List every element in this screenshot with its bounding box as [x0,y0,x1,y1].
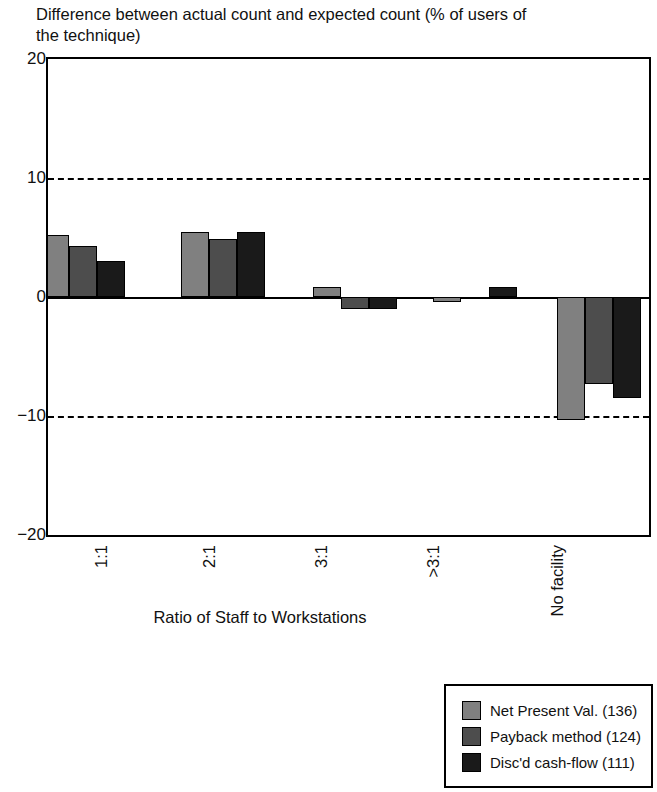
legend-item-label: Payback method (124) [490,728,641,745]
legend-item: Payback method (124) [462,723,651,749]
x-axis-tick-no-facility: No facility [548,545,567,617]
bar [97,261,125,297]
gridline-10 [48,178,649,180]
bar [613,297,641,398]
bar [557,297,585,420]
bar [69,246,97,297]
bar [433,297,461,302]
x-axis-tick-2-1: 2:1 [200,545,219,568]
x-axis-title: Ratio of Staff to Workstations [0,608,520,627]
y-axis-tick-20: 20 [0,49,46,69]
legend-swatch-icon [462,701,481,720]
x-axis-tick--3-1: >3:1 [424,545,443,578]
x-axis-tick-3-1: 3:1 [312,545,331,568]
bar [341,297,369,309]
chart-title: Difference between actual count and expe… [36,4,651,46]
bar [46,235,69,297]
y-axis-tick-neg20: −20 [0,525,46,545]
bar [209,239,237,297]
y-axis-tick-10: 10 [0,168,46,188]
legend-item-label: Net Present Val. (136) [490,702,637,719]
bar [585,297,613,384]
bar [489,287,517,297]
bar [369,297,397,309]
y-axis-tick-neg10: −10 [0,406,46,426]
bar [237,232,265,297]
x-axis-tick-1-1: 1:1 [92,545,111,568]
legend-swatch-icon [462,753,481,772]
plot-area [46,57,651,537]
bar [461,297,489,299]
legend-item: Disc'd cash-flow (111) [462,749,651,775]
legend: Net Present Val. (136)Payback method (12… [444,684,653,788]
bar [181,232,209,297]
bar [313,287,341,297]
legend-item: Net Present Val. (136) [462,697,651,723]
legend-swatch-icon [462,727,481,746]
y-axis-tick-0: 0 [0,287,46,307]
legend-item-label: Disc'd cash-flow (111) [490,754,635,771]
